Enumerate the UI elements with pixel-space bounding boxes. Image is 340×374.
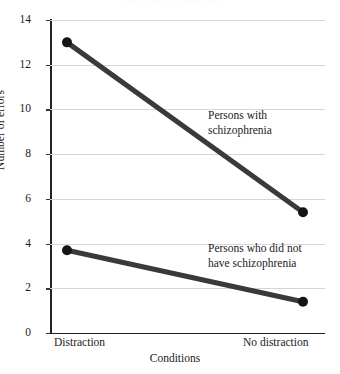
data-point-s2-2 (298, 297, 308, 307)
series-label-persons-with-schizophrenia: Persons with schizophrenia (208, 108, 272, 137)
series-layer (0, 0, 340, 374)
data-point-s1-1 (62, 37, 72, 47)
data-point-s1-2 (298, 207, 308, 217)
series-label-persons-without-schizophrenia: Persons who did not have schizophrenia (208, 241, 302, 270)
data-point-s2-1 (62, 245, 72, 255)
chart-figure: Figure Number of errors made 02468101214… (0, 0, 340, 374)
